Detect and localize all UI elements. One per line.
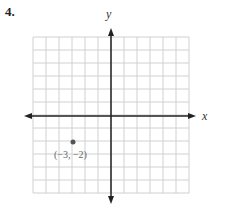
point-label: (−3, −2) (54, 149, 87, 161)
x-axis-left-arrow-icon (24, 113, 32, 119)
y-axis-up-arrow-icon (108, 28, 114, 36)
x-axis-right-arrow-icon (188, 113, 196, 119)
x-axis (24, 113, 196, 119)
plotted-point (71, 140, 76, 145)
y-axis-down-arrow-icon (108, 196, 114, 204)
y-axis-label: y (105, 7, 112, 21)
x-axis-label: x (201, 109, 208, 123)
coordinate-plane: y x (−3, −2) (0, 0, 230, 212)
